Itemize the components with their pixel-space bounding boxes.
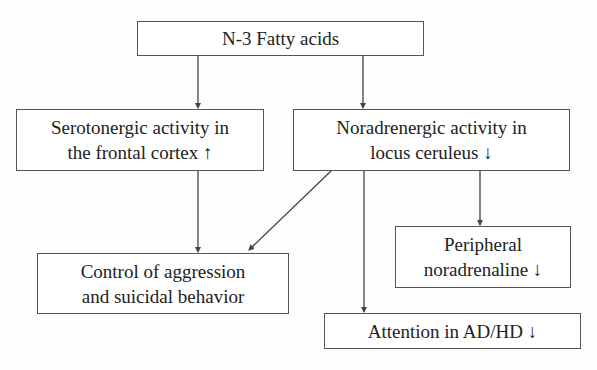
node-serotonergic-activity: Serotonergic activity in the frontal cor…: [16, 109, 264, 171]
flow-diagram: N-3 Fatty acids Serotonergic activity in…: [0, 0, 597, 370]
node-label: Control of aggression and suicidal behav…: [81, 259, 246, 309]
node-peripheral-noradrenaline: Peripheral noradrenaline ↓: [395, 226, 571, 288]
node-label: Attention in AD/HD ↓: [368, 319, 537, 344]
node-noradrenergic-activity: Noradrenergic activity in locus ceruleus…: [293, 109, 570, 171]
node-control-of-aggression: Control of aggression and suicidal behav…: [37, 253, 289, 314]
node-label: N-3 Fatty acids: [222, 26, 339, 51]
node-label: Noradrenergic activity in locus ceruleus…: [336, 115, 527, 165]
arrow-noradrenergic-to-control: [249, 171, 331, 250]
node-label: Peripheral noradrenaline ↓: [424, 232, 543, 282]
node-label: Serotonergic activity in the frontal cor…: [51, 115, 229, 165]
node-n3-fatty-acids: N-3 Fatty acids: [137, 21, 424, 56]
node-attention-adhd: Attention in AD/HD ↓: [324, 313, 581, 349]
